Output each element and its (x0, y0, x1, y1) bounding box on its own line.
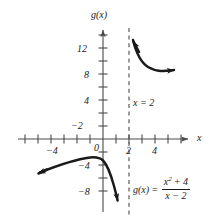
y-tick-label-4: 4 (84, 96, 89, 106)
x-tick-label-2: 2 (126, 146, 131, 156)
y-tick-label-neg4: −4 (78, 161, 90, 171)
numerator-rest: + 4 (174, 176, 188, 187)
asymptote-label: x = 2 (133, 98, 154, 108)
equation-fraction: x2+ 4 x − 2 (162, 177, 190, 201)
equation-numerator: x2+ 4 (162, 177, 190, 190)
function-equation: g(x) = x2+ 4 x − 2 (133, 177, 190, 201)
equation-denominator: x − 2 (163, 190, 188, 202)
curve-right-branch (133, 40, 174, 71)
equation-equals-sign: = (152, 184, 158, 195)
x-tick-label-0: 0 (94, 143, 99, 153)
x-axis-label: x (197, 133, 201, 143)
x-tick-label-neg2: −2 (71, 121, 83, 131)
numerator-exponent: 2 (168, 175, 172, 183)
y-axis (99, 30, 108, 212)
y-tick-label-12: 12 (77, 44, 87, 54)
x-tick-label-neg4: −4 (46, 146, 58, 156)
equation-lhs: g(x) (133, 184, 149, 195)
function-graph-figure: g(x) x 12 8 4 −4 −8 −4 −2 0 2 4 x = 2 g(… (0, 0, 218, 220)
y-tick-label-neg8: −8 (78, 187, 90, 197)
y-axis-label: g(x) (91, 10, 107, 20)
y-tick-label-8: 8 (84, 70, 89, 80)
x-tick-label-4: 4 (152, 146, 157, 156)
